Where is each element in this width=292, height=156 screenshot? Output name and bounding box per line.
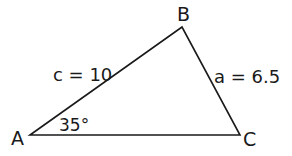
vertex-label-a: A: [11, 127, 24, 149]
side-label-a: a = 6.5: [214, 66, 280, 87]
vertex-label-c: C: [243, 128, 256, 150]
triangle-diagram: A B C c = 10 a = 6.5 35°: [0, 0, 292, 156]
side-label-c: c = 10: [53, 64, 112, 85]
angle-label-a: 35°: [59, 115, 89, 135]
vertex-label-b: B: [177, 3, 190, 25]
